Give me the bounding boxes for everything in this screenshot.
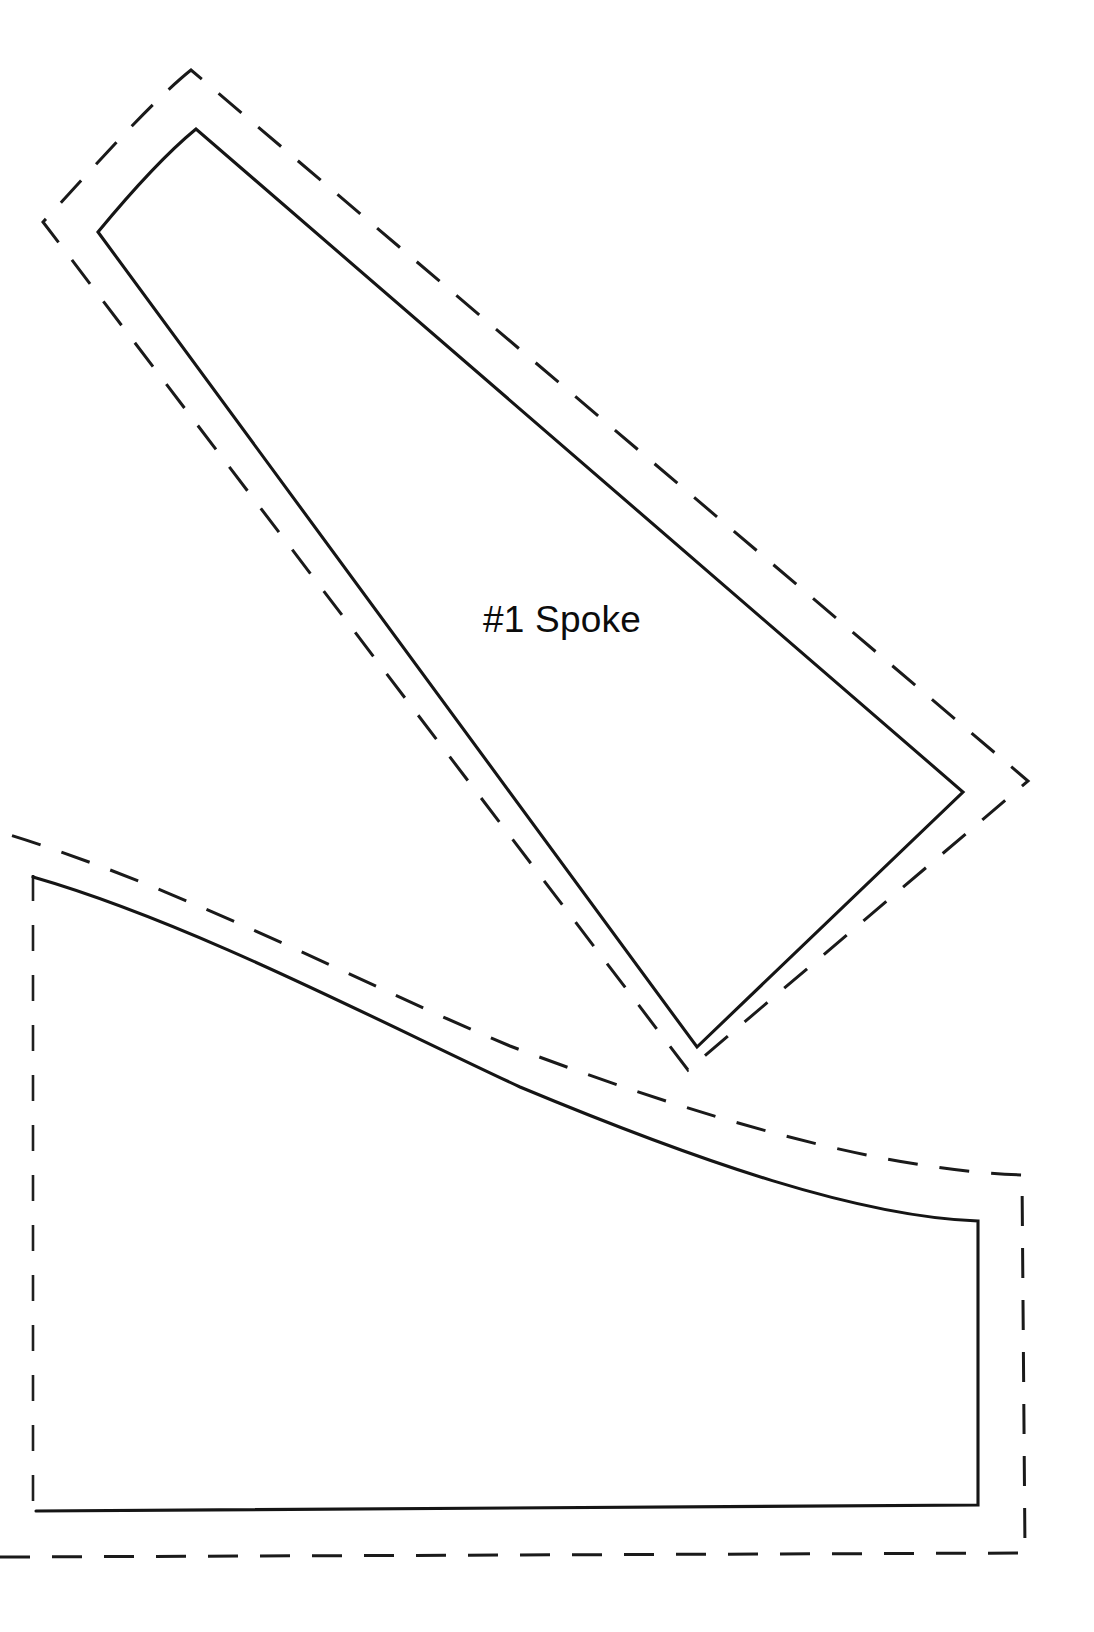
pattern-canvas: #1 Spoke: [0, 0, 1094, 1632]
spoke-1-label: #1 Spoke: [483, 599, 641, 640]
page-background: [0, 0, 1094, 1632]
